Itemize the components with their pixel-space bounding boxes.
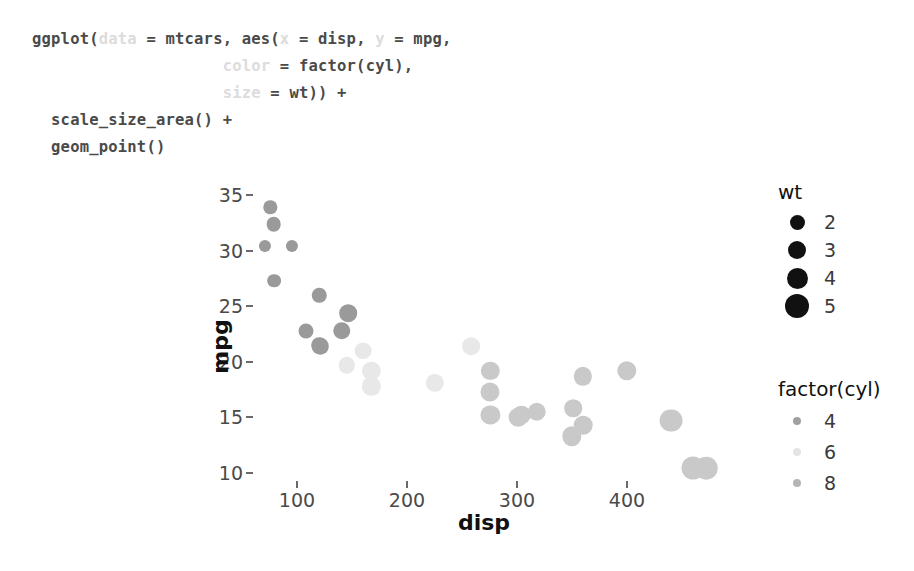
scatter-point (682, 457, 705, 480)
y-tick-label: 35 (219, 184, 243, 206)
scatter-point (481, 406, 500, 425)
code-token: = mtcars, aes( (137, 30, 280, 48)
scatter-point (481, 382, 500, 401)
legend-label: 8 (824, 472, 836, 494)
code-token: = mpg, (385, 30, 452, 48)
code-token: = wt)) + (261, 84, 347, 102)
scatter-point (259, 240, 271, 252)
legend-dot-icon (790, 215, 805, 230)
scatter-point (340, 304, 358, 322)
code-line-3: size = wt)) + (32, 80, 451, 107)
legend-cyl-row[interactable]: 4 (778, 405, 881, 436)
scatter-point (462, 337, 480, 355)
code-line-2: color = factor(cyl), (32, 53, 451, 80)
x-tick-mark (296, 481, 298, 488)
scatter-point (312, 288, 326, 302)
x-tick-mark (626, 481, 628, 488)
y-tick-mark (246, 250, 253, 252)
scatter-point (355, 342, 372, 359)
legend-key (778, 268, 816, 289)
legend-factor-cyl-items: 468 (778, 405, 881, 498)
code-token: ggplot( (32, 30, 99, 48)
y-tick-label: 10 (219, 462, 243, 484)
scatter-point (312, 338, 328, 354)
scatter-point (298, 323, 313, 338)
ggplot-figure: 353025201510 100200300400 disp mpg (0, 170, 914, 571)
scatter-point (425, 374, 443, 392)
code-token: x (280, 30, 290, 48)
legend-dot-icon (788, 241, 806, 259)
code-line-1: ggplot(data = mtcars, aes(x = disp, y = … (32, 26, 451, 53)
scatter-point (617, 361, 636, 380)
scatter-point (286, 240, 298, 252)
legend-dot-icon (793, 479, 801, 487)
code-token: data (99, 30, 137, 48)
legend-key (778, 417, 816, 425)
y-tick-label: 30 (219, 240, 243, 262)
x-tick-label: 100 (279, 489, 315, 511)
legend-key (778, 241, 816, 259)
code-token: size (223, 84, 261, 102)
y-tick-label: 25 (219, 295, 243, 317)
y-tick-mark (246, 194, 253, 196)
legend-wt-items: 2345 (778, 208, 836, 320)
legend-key (778, 294, 816, 318)
y-tick-mark (246, 472, 253, 474)
scatter-point (338, 357, 354, 373)
scatter-point (562, 427, 581, 446)
code-line-5: geom_point() (32, 134, 451, 161)
y-tick-label: 15 (219, 406, 243, 428)
scatter-point (264, 201, 277, 214)
scatter-point (509, 408, 528, 427)
x-axis-title: disp (253, 510, 715, 535)
code-token: color (223, 57, 271, 75)
code-token (32, 57, 223, 75)
scatter-point (267, 274, 281, 288)
x-tick-mark (406, 481, 408, 488)
legend-factor-cyl-title: factor(cyl) (778, 377, 881, 401)
legend-wt: wt 2345 (778, 180, 836, 320)
legend-cyl-row[interactable]: 8 (778, 467, 881, 498)
y-tick-mark (246, 416, 253, 418)
r-code-snippet: ggplot(data = mtcars, aes(x = disp, y = … (32, 26, 451, 161)
plot-panel (253, 184, 715, 484)
legend-label: 6 (824, 441, 836, 463)
legend-key (778, 215, 816, 230)
legend-label: 3 (824, 239, 836, 261)
x-tick-label: 400 (609, 489, 645, 511)
y-tick-mark (246, 361, 253, 363)
legend-wt-row[interactable]: 3 (778, 236, 836, 264)
legend-wt-row[interactable]: 2 (778, 208, 836, 236)
scatter-point (481, 362, 499, 380)
scatter-point (660, 409, 683, 432)
x-tick-mark (516, 481, 518, 488)
legend-label: 5 (824, 295, 836, 317)
scatter-point (564, 400, 582, 418)
legend-key (778, 448, 816, 456)
legend-wt-row[interactable]: 5 (778, 292, 836, 320)
code-line-4: scale_size_area() + (32, 107, 451, 134)
legend-label: 4 (824, 410, 836, 432)
legend-dot-icon (785, 294, 809, 318)
code-token: scale_size_area() + (32, 111, 232, 129)
scatter-point (362, 377, 380, 395)
code-token: y (375, 30, 385, 48)
code-token: = disp, (289, 30, 375, 48)
scatter-point (266, 217, 281, 232)
code-token: geom_point() (32, 138, 165, 156)
scatter-point (528, 403, 547, 422)
scatter-point (574, 367, 592, 385)
legend-cyl-row[interactable]: 6 (778, 436, 881, 467)
code-token (32, 84, 223, 102)
y-axis-title: mpg (208, 319, 233, 373)
y-tick-mark (246, 305, 253, 307)
legend-dot-icon (793, 448, 801, 456)
legend-wt-row[interactable]: 4 (778, 264, 836, 292)
x-tick-label: 200 (389, 489, 425, 511)
legend-label: 4 (824, 267, 836, 289)
scatter-point (333, 322, 351, 340)
legend-dot-icon (787, 268, 808, 289)
legend-key (778, 479, 816, 487)
x-tick-label: 300 (499, 489, 535, 511)
legend-dot-icon (793, 417, 801, 425)
